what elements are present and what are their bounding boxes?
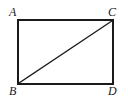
vertex-label-a: A <box>9 6 16 18</box>
diagonal-bc-line <box>19 21 113 84</box>
geometry-figure: A C B D <box>0 0 128 101</box>
vertex-label-d: D <box>108 85 117 97</box>
vertex-label-c: C <box>108 6 116 18</box>
vertex-label-b: B <box>9 85 16 97</box>
